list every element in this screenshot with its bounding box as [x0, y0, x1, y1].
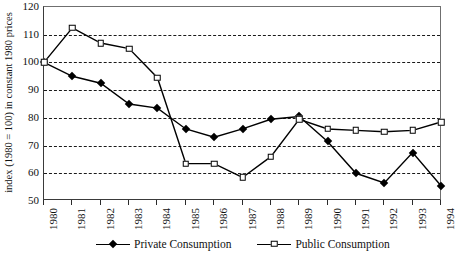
data-point-marker [438, 119, 445, 126]
series-polylines [44, 7, 442, 201]
legend-entry[interactable]: Private Consumption [96, 238, 231, 250]
x-axis-tick-mark [128, 200, 129, 205]
x-axis-tick-mark [270, 200, 271, 205]
data-layer [44, 7, 440, 199]
x-axis-tick-mark [327, 200, 328, 205]
x-axis-tick-label: 1983 [133, 208, 144, 230]
y-axis-tick-label: 110 [14, 28, 39, 39]
x-axis-tick-label: 1985 [190, 208, 201, 230]
x-axis-tick-label: 1989 [303, 208, 314, 230]
legend-label: Public Consumption [295, 238, 389, 250]
y-axis-tick-label: 90 [14, 84, 39, 95]
square-marker-icon [257, 239, 291, 250]
plot-area [43, 6, 441, 200]
x-axis-tick-label: 1982 [105, 208, 116, 230]
data-point-marker [296, 116, 303, 123]
x-axis-tick-label: 1991 [360, 208, 371, 230]
data-point-marker [69, 25, 76, 32]
data-point-marker [268, 153, 275, 160]
x-axis-tick-mark [412, 200, 413, 205]
x-axis-tick-label: 1993 [417, 208, 428, 230]
x-axis-tick-label: 1981 [76, 208, 87, 230]
x-axis-tick-label: 1988 [275, 208, 286, 230]
data-point-marker [324, 126, 331, 133]
series-line-open-square [44, 28, 441, 178]
x-axis-tick-mark [213, 200, 214, 205]
chart-figure: index (1980 = 100) in constant 1980 pric… [0, 0, 458, 259]
data-point-marker [97, 40, 104, 47]
y-axis-title-text: index (1980 = 100) in constant 1980 pric… [3, 12, 14, 193]
x-axis-tick-label: 1984 [161, 208, 172, 230]
data-point-marker [353, 127, 360, 134]
x-axis-tick-mark [43, 200, 44, 205]
y-axis-tick-label: 70 [14, 139, 39, 150]
legend-entry[interactable]: Public Consumption [257, 238, 389, 250]
y-axis-tick-label: 120 [14, 1, 39, 12]
chart-legend: Private ConsumptionPublic Consumption [96, 236, 390, 252]
x-axis-tick-label: 1992 [388, 208, 399, 230]
x-axis-tick-label: 1990 [332, 208, 343, 230]
data-point-marker [126, 45, 133, 52]
data-point-marker [154, 74, 161, 81]
y-axis-tick-label: 80 [14, 111, 39, 122]
diamond-marker-icon [96, 239, 130, 250]
x-axis-tick-label: 1986 [218, 208, 229, 230]
data-point-marker [409, 127, 416, 134]
y-axis-tick-label: 50 [14, 195, 39, 206]
x-axis-tick-mark [355, 200, 356, 205]
x-axis-tick-mark [242, 200, 243, 205]
legend-label: Private Consumption [134, 238, 231, 250]
x-axis-tick-label: 1994 [445, 208, 456, 230]
x-axis-tick-mark [71, 200, 72, 205]
x-axis-tick-mark [383, 200, 384, 205]
x-axis-tick-mark [298, 200, 299, 205]
data-point-marker [211, 160, 218, 167]
data-point-marker [381, 128, 388, 135]
x-axis-tick-label: 1980 [48, 208, 59, 230]
y-axis-tick-label: 60 [14, 167, 39, 178]
x-axis-tick-label: 1987 [247, 208, 258, 230]
y-axis-tick-labels: 5060708090100110120 [14, 0, 39, 202]
x-axis-tick-mark [185, 200, 186, 205]
data-point-marker [183, 160, 190, 167]
data-point-marker [239, 174, 246, 181]
x-axis-tick-mark [156, 200, 157, 205]
y-axis-tick-label: 100 [14, 56, 39, 67]
x-axis-tick-mark [440, 200, 441, 205]
x-axis-tick-mark [100, 200, 101, 205]
data-point-marker [41, 59, 48, 66]
